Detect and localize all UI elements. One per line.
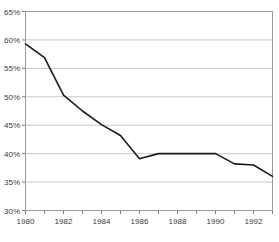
x-axis-tick-label: 1982 xyxy=(55,217,73,226)
y-axis-tick-label: 55% xyxy=(4,64,20,73)
x-axis-tick-label: 1988 xyxy=(169,217,187,226)
chart-container: 30%35%40%45%50%55%60%65% 198019821984198… xyxy=(0,0,279,242)
y-axis-label-group: 30%35%40%45%50%55%60%65% xyxy=(4,8,20,216)
x-axis-tick-label: 1992 xyxy=(245,217,263,226)
y-axis-tick-label: 30% xyxy=(4,207,20,216)
x-axis-label-group: 1980198219841986198819901992 xyxy=(17,217,263,226)
clipped-caption-fragment xyxy=(0,232,279,242)
x-axis-tick-label: 1984 xyxy=(93,217,111,226)
y-axis-tick-label: 65% xyxy=(4,8,20,17)
data-series-line xyxy=(26,44,273,176)
line-chart: 30%35%40%45%50%55%60%65% 198019821984198… xyxy=(0,0,279,242)
y-axis-tick-label: 40% xyxy=(4,150,20,159)
gridline-group xyxy=(26,40,273,182)
x-axis-tick-label: 1980 xyxy=(17,217,35,226)
y-axis-tick-group xyxy=(22,12,26,211)
y-axis-tick-label: 50% xyxy=(4,93,20,102)
x-axis-tick-label: 1986 xyxy=(131,217,149,226)
x-axis-tick-label: 1990 xyxy=(207,217,225,226)
y-axis-tick-label: 35% xyxy=(4,178,20,187)
plot-frame xyxy=(26,12,273,211)
x-axis-tick-group xyxy=(26,211,273,215)
y-axis-tick-label: 60% xyxy=(4,36,20,45)
y-axis-tick-label: 45% xyxy=(4,121,20,130)
